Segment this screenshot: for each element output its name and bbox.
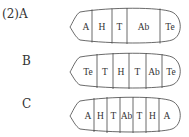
segment-label: A	[83, 22, 90, 32]
segment-label: H	[97, 111, 104, 121]
segment-label: H	[118, 67, 125, 77]
embryo-a-labels: A H T Ab Te	[83, 22, 175, 32]
segment-label: T	[102, 67, 108, 77]
segment-label: Te	[165, 22, 174, 32]
segment-label: Te	[83, 67, 92, 77]
segment-label: Ab	[148, 67, 160, 77]
embryo-c-labels: A H T Ab T H A	[85, 111, 171, 121]
segment-label: T	[117, 22, 123, 32]
segment-label: T	[111, 111, 117, 121]
segment-label: T	[135, 67, 141, 77]
segment-label: A	[85, 111, 92, 121]
segment-label: H	[149, 111, 156, 121]
segment-label: T	[137, 111, 143, 121]
embryo-diagrams: A H T Ab Te Te T H T Ab Te A H T Ab T H	[0, 0, 189, 137]
segment-label: Ab	[138, 22, 150, 32]
segment-label: Te	[166, 67, 175, 77]
segment-label: H	[99, 22, 106, 32]
segment-label: Ab	[121, 111, 133, 121]
segment-label: A	[164, 111, 171, 121]
